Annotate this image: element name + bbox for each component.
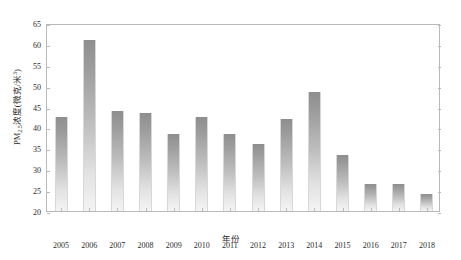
bar — [195, 117, 208, 211]
bar — [83, 40, 96, 211]
y-axis-tick-mark-right — [438, 109, 441, 110]
bar — [223, 134, 236, 211]
y-axis-tick-mark-right — [438, 129, 441, 130]
y-axis-tick-mark — [47, 171, 50, 172]
y-axis-tick-label: 40 — [17, 124, 41, 133]
y-axis-tick-label: 65 — [17, 20, 41, 29]
y-axis-tick-mark-right — [438, 213, 441, 214]
x-axis-tick-mark — [117, 208, 118, 211]
y-axis-title-superscript: 3 — [12, 72, 18, 75]
x-axis-tick-mark — [230, 208, 231, 211]
y-axis-tick-label: 25 — [17, 187, 41, 196]
y-axis-tick-label: 20 — [17, 208, 41, 217]
y-axis-tick-mark — [47, 67, 50, 68]
y-axis-tick-mark — [47, 129, 50, 130]
x-axis-tick-mark — [61, 208, 62, 211]
bar — [139, 113, 152, 211]
y-axis-tick-mark-right — [438, 67, 441, 68]
bar — [280, 119, 293, 211]
x-axis-tick-mark — [371, 208, 372, 211]
x-axis-tick-mark — [89, 208, 90, 211]
bar — [308, 92, 321, 211]
y-axis-title-prefix: PM — [12, 133, 22, 145]
y-axis-tick-mark-right — [438, 88, 441, 89]
y-axis-tick-mark-right — [438, 46, 441, 47]
x-axis-tick-mark — [343, 208, 344, 211]
y-axis-tick-label: 55 — [17, 62, 41, 71]
y-axis-tick-mark — [47, 213, 50, 214]
bar — [55, 117, 68, 211]
y-axis-tick-mark — [47, 25, 50, 26]
bar-chart-figure: PM2.5浓度(微克/米3) 2025303540455055606520052… — [0, 0, 461, 260]
y-axis-tick-mark-right — [438, 150, 441, 151]
bar — [111, 111, 124, 211]
plot-area: 2025303540455055606520052006200720082009… — [46, 24, 440, 212]
x-axis-tick-mark — [258, 208, 259, 211]
x-axis-tick-mark — [286, 208, 287, 211]
y-axis-tick-mark — [47, 109, 50, 110]
x-axis-tick-mark — [202, 208, 203, 211]
y-axis-tick-mark-right — [438, 171, 441, 172]
y-axis-tick-mark — [47, 88, 50, 89]
y-axis-tick-mark — [47, 150, 50, 151]
bar — [167, 134, 180, 211]
y-axis-tick-mark-right — [438, 192, 441, 193]
y-axis-tick-label: 45 — [17, 104, 41, 113]
y-axis-tick-label: 35 — [17, 145, 41, 154]
bar — [392, 184, 405, 211]
y-axis-tick-mark-right — [438, 25, 441, 26]
x-axis-tick-mark — [427, 208, 428, 211]
bar — [252, 144, 265, 211]
y-axis-tick-label: 30 — [17, 166, 41, 175]
y-axis-tick-mark — [47, 46, 50, 47]
x-axis-tick-mark — [314, 208, 315, 211]
bar — [364, 184, 377, 211]
x-axis-tick-mark — [174, 208, 175, 211]
x-axis-title: 年份 — [0, 232, 461, 244]
y-axis-tick-mark — [47, 192, 50, 193]
x-axis-tick-mark — [146, 208, 147, 211]
y-axis-tick-label: 50 — [17, 83, 41, 92]
x-axis-tick-mark — [399, 208, 400, 211]
y-axis-tick-label: 60 — [17, 41, 41, 50]
bar — [336, 155, 349, 211]
